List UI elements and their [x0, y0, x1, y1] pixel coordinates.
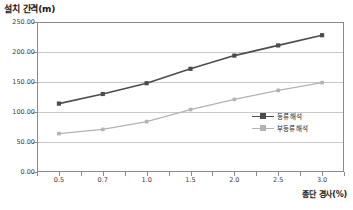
y-axis-tick-label: 50.00 — [3, 138, 35, 146]
legend-marker-icon — [260, 125, 266, 131]
chart-title: 설치 간격(m) — [4, 2, 55, 15]
x-axis-tick-label: 2.0 — [229, 176, 239, 184]
x-axis-tick-label: 0.5 — [54, 176, 64, 184]
x-axis-tick-mark — [234, 172, 235, 176]
y-axis-tick-label: 0.00 — [3, 168, 35, 176]
gridline — [38, 52, 343, 53]
legend-item: 부등류 해석 — [252, 122, 308, 134]
x-axis-category-boundary-tick — [169, 172, 170, 176]
x-axis-tick-label: 1.5 — [185, 176, 195, 184]
x-axis-tick-mark — [278, 172, 279, 176]
legend-label: 등류 해석 — [277, 111, 302, 121]
legend-item: 등류 해석 — [252, 110, 308, 122]
x-axis-category-boundary-tick — [81, 172, 82, 176]
x-axis-tick-mark — [191, 172, 192, 176]
x-axis-tick-label: 0.7 — [98, 176, 108, 184]
x-axis-tick-label: 3.0 — [317, 176, 327, 184]
chart-legend: 등류 해석부등류 해석 — [252, 110, 308, 134]
y-axis-tick-mark — [33, 82, 37, 83]
chart-container: 설치 간격(m) 0.0050.00100.00150.00200.00250.… — [0, 0, 353, 210]
x-axis-tick-label: 2.5 — [273, 176, 283, 184]
x-axis-category-boundary-tick — [125, 172, 126, 176]
legend-marker-icon — [260, 113, 266, 119]
legend-swatch-icon — [252, 111, 274, 121]
gridline — [38, 82, 343, 83]
x-axis-tick-label: 1.0 — [141, 176, 151, 184]
y-axis-tick-label: 200.00 — [3, 48, 35, 56]
x-axis-category-boundary-tick — [256, 172, 257, 176]
legend-swatch-icon — [252, 123, 274, 133]
y-axis-tick-label: 250.00 — [3, 18, 35, 26]
x-axis-category-boundary-tick — [344, 172, 345, 176]
x-axis-tick-mark — [59, 172, 60, 176]
y-axis-tick-mark — [33, 142, 37, 143]
x-axis-tick-mark — [322, 172, 323, 176]
y-axis-tick-mark — [33, 22, 37, 23]
y-axis-tick-mark — [33, 52, 37, 53]
x-axis-category-boundary-tick — [300, 172, 301, 176]
y-axis-tick-label: 100.00 — [3, 108, 35, 116]
y-axis-tick-label: 150.00 — [3, 78, 35, 86]
x-axis-category-boundary-tick — [37, 172, 38, 176]
x-axis-tick-mark — [103, 172, 104, 176]
y-axis-tick-mark — [33, 112, 37, 113]
gridline — [38, 142, 343, 143]
x-axis-category-boundary-tick — [212, 172, 213, 176]
legend-label: 부등류 해석 — [277, 123, 308, 133]
x-axis-title: 종단 경사(%) — [302, 188, 347, 199]
plot-area — [37, 22, 344, 172]
x-axis-tick-mark — [147, 172, 148, 176]
